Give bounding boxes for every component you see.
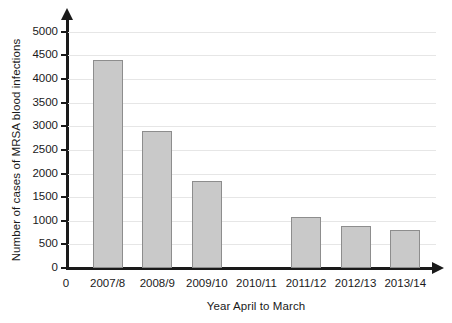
gridline [68,103,436,104]
y-axis-tick-label: 3500 [14,97,58,109]
gridline [68,55,436,56]
y-axis-tick-label: 5000 [14,26,58,38]
bar-2009-10 [192,181,222,268]
y-axis-tick-label: 500 [14,238,58,250]
y-axis-tick [61,54,68,56]
y-axis-tick-label: 1000 [14,215,58,227]
x-axis-tick-labels: 0 2007/82008/92009/102010/112011/122012/… [0,276,452,292]
x-axis-origin-label: 0 [52,276,80,290]
gridline [68,174,436,175]
y-axis-tick-label: 4000 [14,73,58,85]
y-axis-tick [61,196,68,198]
y-axis-tick-label: 1500 [14,191,58,203]
y-axis-tick [61,173,68,175]
bar-2013-14 [390,230,420,268]
y-axis-tick [61,102,68,104]
y-axis-tick [61,243,68,245]
y-axis-tick-label: 3000 [14,120,58,132]
gridline [68,197,436,198]
y-axis-tick [61,267,68,269]
gridline [68,126,436,127]
x-axis-title: Year April to March [60,300,452,312]
y-axis-tick-label: 2500 [14,144,58,156]
gridline [68,150,436,151]
bar-2007-8 [93,60,123,268]
y-axis-tick [61,125,68,127]
y-axis-tick [61,78,68,80]
bar-2011-12 [291,217,321,268]
y-axis-tick-labels: 0500100015002000250030003500400045005000 [14,20,58,268]
y-axis-tick-label: 2000 [14,168,58,180]
bar-2008-9 [142,131,172,268]
y-axis-tick-label: 4500 [14,49,58,61]
gridline [68,79,436,80]
gridline [68,221,436,222]
y-axis-tick [61,149,68,151]
gridline [68,244,436,245]
plot-area [68,20,436,268]
gridline [68,32,436,33]
y-axis-tick [61,220,68,222]
y-axis-tick-label: 0 [14,262,58,274]
y-axis-arrow-icon [61,8,73,20]
bar-chart-figure: Number of cases of MRSA blood infections… [0,0,452,323]
y-axis-tick [61,31,68,33]
bar-2012-13 [341,226,371,269]
x-axis-tick-label: 2013/14 [375,276,435,290]
